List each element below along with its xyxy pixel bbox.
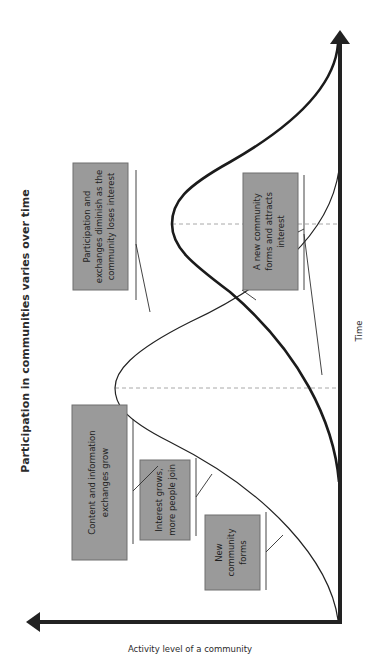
svg-text:Participation and: Participation and xyxy=(82,191,92,263)
svg-text:exchanges diminish as the: exchanges diminish as the xyxy=(94,170,104,283)
callout-new-community: New community forms xyxy=(205,512,283,590)
participation-diagram: Participation in communities varies over… xyxy=(0,0,373,672)
svg-text:community loses interest: community loses interest xyxy=(106,172,116,280)
y-axis-label: Activity level of a community xyxy=(128,644,252,654)
svg-text:community: community xyxy=(226,529,236,577)
svg-text:forms: forms xyxy=(238,540,248,565)
svg-text:Content and information: Content and information xyxy=(87,430,97,534)
activity-axis-arrow-icon xyxy=(26,612,40,632)
svg-text:more people join: more people join xyxy=(167,464,177,536)
svg-text:exchanges grow: exchanges grow xyxy=(100,448,110,517)
callout-participation-diminish: Participation and exchanges diminish as … xyxy=(73,163,150,312)
time-axis-arrow-icon xyxy=(330,30,350,44)
svg-text:forms and attracts: forms and attracts xyxy=(264,192,274,271)
svg-text:interest: interest xyxy=(276,215,286,248)
callout-interest-grows: Interest grows, more people join xyxy=(140,458,212,540)
svg-text:Interest grows,: Interest grows, xyxy=(154,468,164,531)
x-axis-label: Time xyxy=(354,321,364,343)
svg-text:A new community: A new community xyxy=(252,193,262,270)
svg-text:New: New xyxy=(214,543,224,562)
diagram-title: Participation in communities varies over… xyxy=(19,189,32,472)
